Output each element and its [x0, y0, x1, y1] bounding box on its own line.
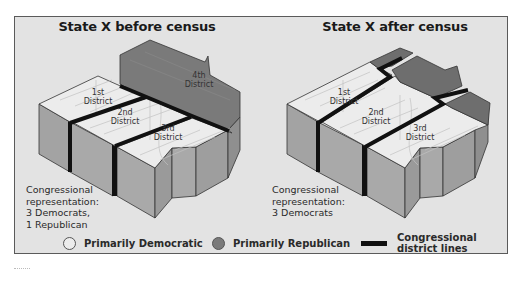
republican-swatch-icon — [212, 237, 225, 250]
district-line-swatch-icon — [361, 241, 387, 246]
district-label: District — [154, 133, 183, 142]
legend-label-line: district lines — [397, 243, 477, 254]
rep-line: 1 Republican — [26, 219, 99, 231]
district-label: 2nd — [117, 108, 132, 117]
legend-republican: Primarily Republican — [212, 237, 350, 250]
district-label: 2nd — [368, 108, 383, 117]
district-line-side — [112, 144, 117, 196]
district-3-side-c — [420, 147, 443, 198]
district-label: District — [362, 117, 391, 126]
legend-label: Primarily Democratic — [84, 238, 203, 249]
rep-line: 3 Democrats — [272, 207, 345, 219]
district-line-side — [316, 121, 320, 172]
district-label: District — [406, 133, 435, 142]
legend-label: Congressional district lines — [397, 232, 477, 254]
rep-line: Congressional — [272, 184, 345, 196]
democratic-swatch-icon — [63, 237, 76, 250]
legend-district-lines: Congressional district lines — [361, 232, 477, 254]
district-label: 4th — [192, 71, 205, 80]
district-label: District — [111, 117, 140, 126]
district-label: 3rd — [161, 124, 174, 133]
district-3-side-c — [172, 147, 196, 198]
district-label: 1st — [338, 88, 350, 97]
district-label: District — [84, 97, 113, 106]
footnote-mark — [14, 268, 30, 272]
district-label: District — [185, 80, 214, 89]
district-label: 3rd — [413, 124, 426, 133]
rep-line: 3 Democrats, — [26, 207, 99, 219]
representation-before: Congressional representation: 3 Democrat… — [26, 184, 99, 230]
legend-label-line: Congressional — [397, 232, 477, 243]
district-line-side — [362, 144, 367, 196]
legend-democratic: Primarily Democratic — [63, 237, 203, 250]
rep-line: Congressional — [26, 184, 99, 196]
district-label: District — [330, 97, 359, 106]
district-line-side — [68, 121, 72, 172]
rep-line: representation: — [272, 196, 345, 208]
rep-line: representation: — [26, 196, 99, 208]
legend-label: Primarily Republican — [233, 238, 350, 249]
representation-after: Congressional representation: 3 Democrat… — [272, 184, 345, 219]
district-label: 1st — [92, 88, 104, 97]
